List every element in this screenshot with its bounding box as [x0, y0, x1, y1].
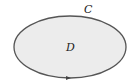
region-label: D	[65, 41, 75, 54]
region-diagram: C D	[0, 0, 128, 83]
curve-label: C	[84, 3, 93, 16]
